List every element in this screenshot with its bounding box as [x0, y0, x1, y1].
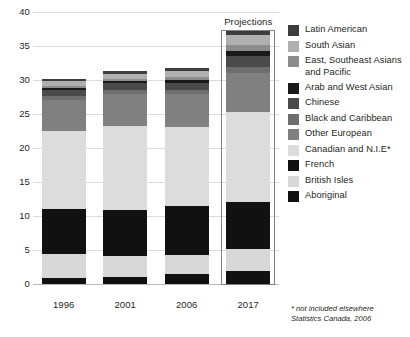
- legend-swatch-icon: [288, 98, 299, 109]
- bar-stack-1996: [42, 79, 86, 284]
- bar-segment: [226, 271, 270, 284]
- legend-swatch-icon: [288, 176, 299, 187]
- bar-column-2001[interactable]: [103, 12, 147, 284]
- y-axis-tick-30: 30: [4, 75, 30, 85]
- bar-segment: [103, 277, 147, 284]
- legend-label: British Isles: [305, 175, 353, 187]
- legend-item-7[interactable]: Canadian and N.I.E*: [288, 144, 406, 156]
- bar-segment: [165, 255, 209, 273]
- x-axis-label-2017: 2017: [226, 300, 270, 310]
- legend-item-4[interactable]: Chinese: [288, 97, 406, 109]
- legend-label: South Asian: [305, 40, 355, 52]
- legend-swatch-icon: [288, 83, 299, 94]
- legend-label: Latin American: [305, 24, 367, 36]
- bar-column-1996[interactable]: [42, 12, 86, 284]
- legend-label: Other European: [305, 128, 372, 140]
- bar-segment: [165, 274, 209, 284]
- bar-segment: [226, 249, 270, 271]
- legend-swatch-icon: [288, 114, 299, 125]
- legend-label: Black and Caribbean: [305, 113, 392, 125]
- bar-segment: [226, 35, 270, 45]
- projections-label: Projections: [210, 17, 286, 27]
- legend-item-3[interactable]: Arab and West Asian: [288, 82, 406, 94]
- legend: Latin AmericanSouth AsianEast, Southeast…: [288, 24, 406, 206]
- legend-item-8[interactable]: French: [288, 159, 406, 171]
- bar-segment: [103, 94, 147, 126]
- bar-segment: [103, 126, 147, 210]
- y-axis: 0510152025303540: [4, 12, 30, 284]
- legend-swatch-icon: [288, 25, 299, 36]
- legend-swatch-icon: [288, 129, 299, 140]
- legend-item-5[interactable]: Black and Caribbean: [288, 113, 406, 125]
- y-axis-tick-0: 0: [4, 279, 30, 289]
- bar-segment: [42, 131, 86, 209]
- bar-column-2006[interactable]: [165, 12, 209, 284]
- legend-item-0[interactable]: Latin American: [288, 24, 406, 36]
- legend-swatch-icon: [288, 56, 299, 67]
- footnote-line-2: Statistics Canada, 2006: [291, 314, 409, 324]
- bar-column-2017[interactable]: [226, 12, 270, 284]
- y-axis-tick-25: 25: [4, 109, 30, 119]
- x-axis-label-2006: 2006: [165, 300, 209, 310]
- y-axis-tick-15: 15: [4, 177, 30, 187]
- legend-item-9[interactable]: British Isles: [288, 175, 406, 187]
- footnote: * not included elsewhere Statistics Cana…: [291, 304, 409, 323]
- bar-segment: [226, 202, 270, 249]
- y-axis-tick-40: 40: [4, 7, 30, 17]
- bar-stack-2006: [165, 68, 209, 284]
- legend-label: Aboriginal: [305, 190, 347, 202]
- y-axis-tick-10: 10: [4, 211, 30, 221]
- bar-segment: [103, 210, 147, 256]
- bar-segment: [226, 56, 270, 68]
- x-axis-label-2001: 2001: [103, 300, 147, 310]
- bar-segment: [42, 100, 86, 131]
- bar-segment: [226, 112, 270, 202]
- bar-segment: [42, 209, 86, 255]
- legend-swatch-icon: [288, 191, 299, 202]
- legend-label: French: [305, 159, 334, 171]
- legend-swatch-icon: [288, 160, 299, 171]
- bar-segment: [165, 127, 209, 206]
- footnote-line-1: * not included elsewhere: [291, 304, 409, 314]
- legend-label: Arab and West Asian: [305, 82, 393, 94]
- bar-series-group: 1996200120062017: [33, 12, 279, 284]
- bar-segment: [226, 73, 270, 112]
- legend-item-6[interactable]: Other European: [288, 128, 406, 140]
- legend-item-1[interactable]: South Asian: [288, 40, 406, 52]
- legend-label: Chinese: [305, 97, 339, 109]
- legend-item-2[interactable]: East, Southeast Asians and Pacific: [288, 55, 406, 78]
- bar-segment: [165, 206, 209, 256]
- bar-segment: [165, 94, 209, 127]
- bar-segment: [42, 254, 86, 278]
- bar-segment: [42, 278, 86, 284]
- bar-segment: [165, 83, 209, 90]
- y-axis-tick-35: 35: [4, 41, 30, 51]
- bar-segment: [103, 83, 147, 90]
- legend-swatch-icon: [288, 41, 299, 52]
- plot-area: 0510152025303540 1996200120062017 Projec…: [0, 0, 282, 337]
- chart-figure: 0510152025303540 1996200120062017 Projec…: [0, 0, 410, 337]
- bar-segment: [103, 256, 147, 276]
- y-axis-tick-20: 20: [4, 143, 30, 153]
- legend-label: East, Southeast Asians and Pacific: [305, 55, 406, 78]
- y-axis-tick-5: 5: [4, 245, 30, 255]
- bar-stack-2017: [226, 31, 270, 284]
- bar-stack-2001: [103, 71, 147, 284]
- legend-item-10[interactable]: Aboriginal: [288, 190, 406, 202]
- legend-swatch-icon: [288, 145, 299, 156]
- gridline-0: [33, 284, 279, 285]
- x-axis-label-1996: 1996: [42, 300, 86, 310]
- legend-label: Canadian and N.I.E*: [305, 144, 391, 156]
